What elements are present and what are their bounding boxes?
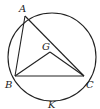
circumcircle <box>8 13 96 101</box>
segment-gc <box>50 52 84 76</box>
segment-ab <box>15 16 25 76</box>
segment-ac <box>25 16 84 76</box>
label-k: K <box>47 99 56 109</box>
geometry-diagram: A G B C K <box>0 0 100 109</box>
label-g: G <box>42 41 50 52</box>
label-a: A <box>18 3 26 14</box>
label-b: B <box>4 79 12 90</box>
segment-bg <box>15 52 50 76</box>
label-c: C <box>86 79 94 90</box>
